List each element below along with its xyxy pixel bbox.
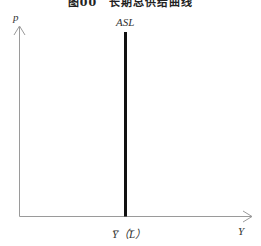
- x-axis-label: Y: [238, 225, 244, 237]
- y-axis-label: p: [13, 11, 19, 23]
- x-marker-label: Y̅（L̅）: [112, 225, 146, 241]
- axes-graphic: [0, 0, 261, 246]
- diagram-canvas: 图00 长期总供给曲线 p ASL Y̅（L̅） Y: [0, 0, 261, 246]
- asl-label: ASL: [116, 16, 134, 28]
